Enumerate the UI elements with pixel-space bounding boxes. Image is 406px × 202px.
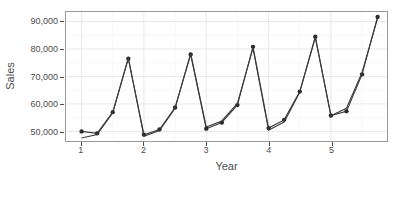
y-tick-label: 60,000: [14, 99, 58, 109]
y-tick-mark: [60, 21, 64, 22]
x-tick-mark: [143, 142, 144, 146]
x-tick-label: 2: [141, 145, 146, 155]
x-tick-mark: [206, 142, 207, 146]
x-axis-title: Year: [65, 160, 388, 172]
y-tick-mark: [60, 49, 64, 50]
x-tick-mark: [81, 142, 82, 146]
data-point: [344, 109, 348, 113]
y-tick-label: 70,000: [14, 72, 58, 82]
x-tick-label: 5: [329, 145, 334, 155]
y-tick-label: 80,000: [14, 44, 58, 54]
data-point: [79, 129, 83, 133]
x-tick-mark: [269, 142, 270, 146]
y-tick-mark: [60, 104, 64, 105]
plot-panel: [65, 11, 388, 142]
chart-figure: Sales 50,00060,00070,00080,00090,000 123…: [0, 0, 406, 202]
x-tick-label: 4: [266, 145, 271, 155]
series-line: [82, 18, 378, 138]
x-tick-label: 3: [204, 145, 209, 155]
series-line: [82, 17, 378, 135]
y-tick-label: 50,000: [14, 127, 58, 137]
y-tick-mark: [60, 77, 64, 78]
y-tick-mark: [60, 132, 64, 133]
x-tick-mark: [332, 142, 333, 146]
plot-area: [66, 12, 387, 141]
y-axis-tick-labels: 50,00060,00070,00080,00090,000: [14, 0, 58, 202]
y-tick-label: 90,000: [14, 16, 58, 26]
x-tick-label: 1: [78, 145, 83, 155]
